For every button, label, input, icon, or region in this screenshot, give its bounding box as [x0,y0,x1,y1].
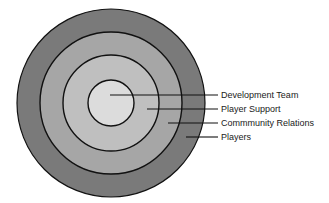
labels-group: Development Team Player Support Commmuni… [221,90,315,142]
label-development-team: Development Team [221,90,298,100]
concentric-diagram: Development Team Player Support Commmuni… [0,0,329,203]
label-community-relations: Commmunity Relations [221,118,315,128]
label-players: Players [221,132,252,142]
label-player-support: Player Support [221,104,281,114]
ring-development-team [88,80,134,126]
rings-group [17,9,205,197]
